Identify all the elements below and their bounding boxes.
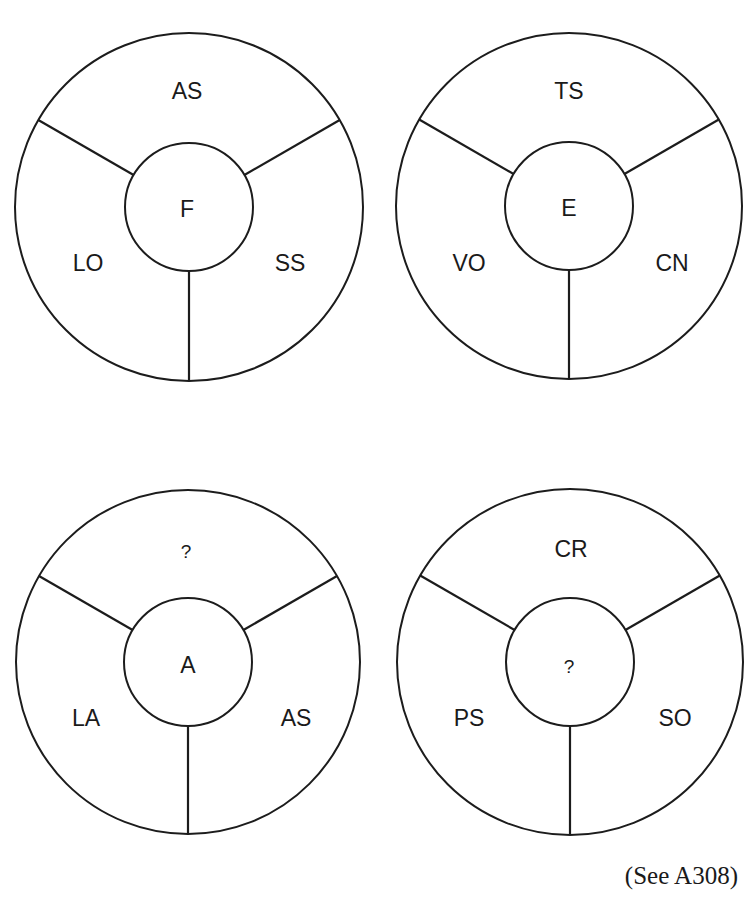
wheel-bottom-left: A ? LA AS: [16, 490, 360, 834]
right-label: CN: [655, 250, 688, 276]
right-label: SO: [658, 705, 691, 731]
spoke-upper-left: [419, 120, 513, 175]
top-label: ?: [181, 541, 192, 562]
spoke-upper-right: [625, 576, 719, 631]
center-label: A: [180, 652, 196, 678]
right-label: SS: [275, 250, 306, 276]
spoke-upper-right: [624, 120, 718, 175]
wheel-puzzle-diagram: F AS LO SS E TS VO CN A ? LA AS ? CR PS: [0, 0, 752, 906]
wheel-top-left: F AS LO SS: [15, 33, 363, 381]
right-label: AS: [281, 705, 312, 731]
center-label: E: [561, 195, 576, 221]
spoke-upper-right: [244, 120, 339, 175]
top-label: CR: [554, 536, 587, 562]
spoke-upper-left: [39, 576, 133, 630]
wheel-bottom-right: ? CR PS SO: [397, 489, 743, 835]
top-label: AS: [172, 78, 203, 104]
left-label: LA: [72, 705, 101, 731]
left-label: LO: [73, 250, 104, 276]
spoke-upper-left: [420, 576, 514, 631]
top-label: TS: [554, 78, 583, 104]
reference-note: (See A308): [625, 862, 738, 890]
center-label: F: [180, 196, 194, 222]
wheel-top-right: E TS VO CN: [396, 33, 742, 379]
left-label: VO: [452, 250, 485, 276]
left-label: PS: [454, 705, 485, 731]
center-label: ?: [564, 656, 575, 677]
spoke-upper-right: [243, 576, 337, 630]
spoke-upper-left: [38, 120, 133, 175]
